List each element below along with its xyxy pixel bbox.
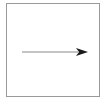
right-arrow-icon: [0, 0, 104, 103]
